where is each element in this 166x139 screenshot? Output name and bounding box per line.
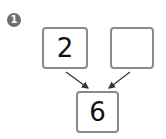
arrows [0,0,166,139]
right-arrow-icon [109,72,130,88]
left-arrow-icon [66,72,88,88]
